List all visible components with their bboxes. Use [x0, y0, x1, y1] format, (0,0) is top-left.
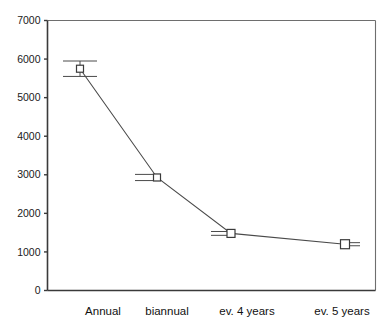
data-point-marker [154, 174, 161, 181]
line-chart-figure: 01000200030004000500060007000 Annualbian… [0, 0, 389, 331]
y-tick-label: 4000 [17, 130, 41, 142]
y-tick-label: 0 [35, 284, 41, 296]
data-point-marker [227, 229, 235, 237]
y-tick-label: 3000 [17, 168, 41, 180]
y-tick-label: 2000 [17, 207, 41, 219]
chart-background [0, 0, 389, 331]
y-tick-label: 6000 [17, 53, 41, 65]
x-category-label: ev. 4 years [219, 305, 275, 317]
y-tick-label: 5000 [17, 91, 41, 103]
x-category-label: ev. 5 years [314, 305, 370, 317]
x-category-label: Annual [85, 305, 121, 317]
x-category-label: biannual [145, 305, 188, 317]
chart-container: 01000200030004000500060007000 Annualbian… [0, 0, 389, 331]
data-point-marker [341, 240, 350, 249]
y-tick-label: 7000 [17, 14, 41, 26]
y-tick-label: 1000 [17, 246, 41, 258]
data-point-marker [77, 65, 84, 72]
